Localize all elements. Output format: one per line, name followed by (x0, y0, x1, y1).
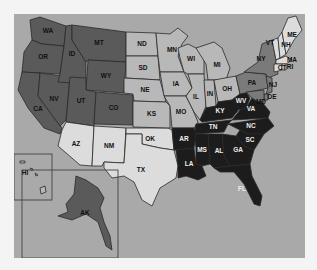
state-label-mt: MT (94, 39, 103, 46)
state-label-la: LA (185, 160, 194, 167)
state-label-nv: NV (49, 95, 59, 102)
state-label-mn: MN (167, 46, 177, 53)
state-label-co: CO (109, 104, 119, 111)
state-label-ok: OK (145, 135, 155, 142)
state-label-tn: TN (209, 123, 218, 130)
state-label-hi: HI (22, 169, 29, 176)
state-label-nm: NM (104, 142, 114, 149)
state-label-nc: NC (246, 122, 256, 129)
state-label-me: ME (287, 31, 297, 38)
state-label-sc: SC (245, 136, 254, 143)
state-label-ms: MS (197, 146, 207, 153)
state-label-nj: NJ (269, 81, 278, 88)
state-label-ia: IA (173, 80, 180, 87)
state-label-id: ID (69, 50, 76, 57)
state-label-pa: PA (248, 79, 257, 86)
state-label-or: OR (38, 53, 48, 60)
state-label-ca: CA (33, 105, 43, 112)
state-label-ri: RI (287, 63, 294, 70)
state-label-mi: MI (213, 61, 220, 68)
state-label-al: AL (215, 147, 224, 154)
state-label-ny: NY (256, 55, 266, 62)
state-label-de: DE (267, 93, 277, 100)
state-label-il: IL (193, 93, 199, 100)
state-label-nd: ND (137, 40, 147, 47)
state-hi[interactable] (20, 161, 46, 194)
state-label-wa: WA (43, 27, 54, 34)
state-label-wi: WI (187, 55, 195, 62)
state-label-ak: AK (80, 209, 90, 216)
state-label-ne: NE (140, 86, 150, 93)
state-label-vt: VT (266, 39, 274, 46)
state-label-ut: UT (77, 97, 86, 104)
state-label-in: IN (207, 90, 214, 97)
state-label-tx: TX (137, 166, 146, 173)
map-canvas: WAORCANVIDMTWYUTCOAZNMNDSDNEKSOKTXMNIAMO… (14, 14, 305, 258)
state-label-wy: WY (101, 72, 112, 79)
state-label-ma: MA (287, 56, 297, 63)
state-label-sd: SD (138, 64, 147, 71)
state-label-wv: WV (236, 97, 247, 104)
state-label-ct: CT (278, 64, 287, 71)
state-label-md: MD (256, 98, 266, 105)
state-label-va: VA (247, 105, 256, 112)
state-label-fl: FL (238, 185, 246, 192)
state-label-ga: GA (233, 146, 243, 153)
state-label-oh: OH (222, 85, 232, 92)
state-label-ar: AR (179, 135, 189, 142)
us-choropleth-map: WAORCANVIDMTWYUTCOAZNMNDSDNEKSOKTXMNIAMO… (14, 14, 305, 258)
state-label-ks: KS (147, 110, 157, 117)
state-label-nh: NH (281, 41, 291, 48)
state-label-az: AZ (72, 140, 81, 147)
state-label-mo: MO (176, 108, 186, 115)
state-label-ky: KY (215, 107, 225, 114)
